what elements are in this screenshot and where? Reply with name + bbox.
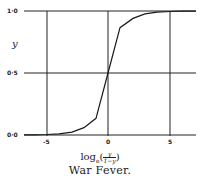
x-axis-fraction: y1−y [103,151,115,164]
x-tick-5: 5 [168,138,172,145]
y-tick-0: 0·0 [7,131,18,138]
x-axis-log: log [80,151,96,162]
x-axis-label: loge(y1−y) [0,151,200,164]
x-tick-neg5: -5 [43,138,50,145]
y-tick-1: 1·0 [7,7,18,14]
y-tick-0-5: 0·5 [7,69,18,76]
chart-title: War Fever. [0,164,200,177]
y-axis-label: y [11,38,18,49]
x-tick-0: 0 [106,138,110,145]
